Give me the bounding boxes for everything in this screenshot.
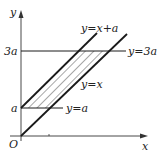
y-axis-arrow-icon bbox=[19, 10, 24, 18]
label-y-eq-x-plus-a: y=x+a bbox=[80, 22, 118, 35]
y-tick-label-a: a bbox=[11, 102, 18, 115]
line-y-eq-x bbox=[21, 34, 127, 136]
label-y-eq-3a: y=3a bbox=[127, 45, 157, 58]
label-y-eq-x: y=x bbox=[80, 78, 103, 91]
x-axis-arrow-icon bbox=[140, 134, 148, 139]
diagram-canvas: y x O a 3a y=x+a y=x y=3a y=a bbox=[0, 0, 159, 162]
y-axis-label: y bbox=[9, 6, 17, 19]
origin-label: O bbox=[9, 138, 18, 151]
label-y-eq-a: y=a bbox=[65, 102, 88, 115]
x-axis-label: x bbox=[142, 140, 149, 153]
y-tick-label-3a: 3a bbox=[4, 45, 18, 58]
